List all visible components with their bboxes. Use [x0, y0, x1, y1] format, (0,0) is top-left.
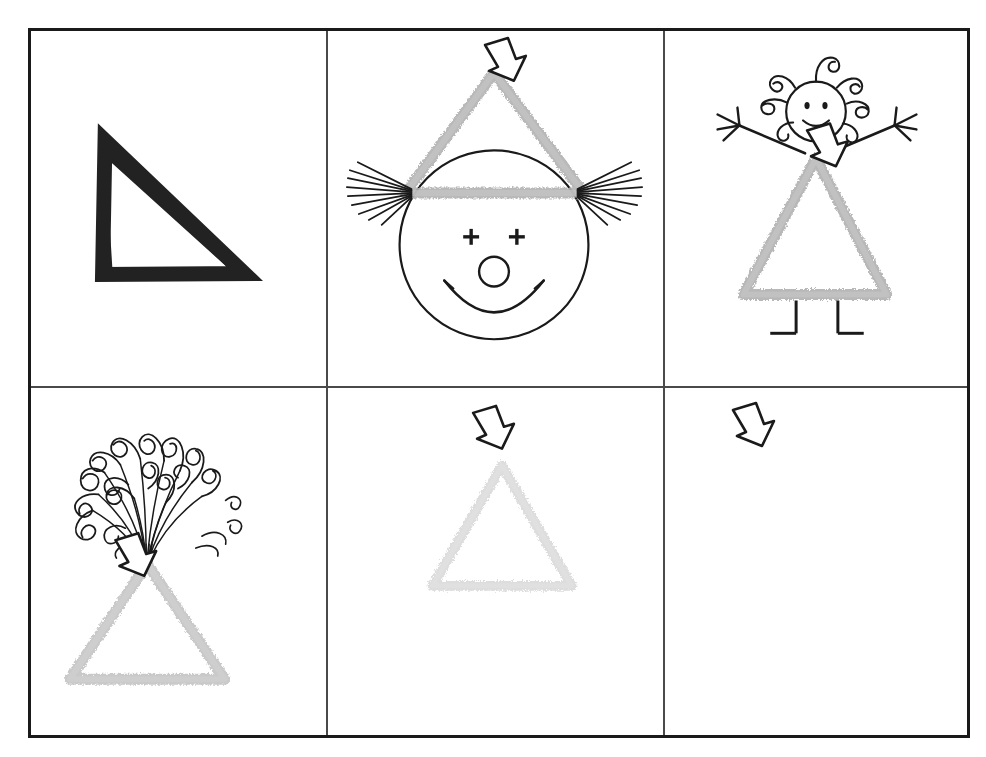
clown-face-circle: [400, 150, 589, 339]
arrow-only-drawing: [665, 388, 967, 735]
worksheet-sheet: Bold solid black outlined triangle Clown…: [28, 28, 970, 738]
worksheet-cell-4[interactable]: Triangle with a bouquet of curly loops b…: [31, 388, 328, 735]
bouquet-blossoms: [75, 434, 220, 539]
solid-triangle-stroke: [103, 140, 245, 274]
stick-girl-drawing: [665, 31, 967, 386]
solid-black-triangle-drawing: [31, 31, 326, 386]
dress-triangle-icon: [743, 158, 886, 294]
worksheet-cell-6[interactable]: Arrow alone with no triangle — the promp…: [665, 388, 967, 735]
prompt-arrow-icon: [733, 403, 774, 446]
clown-face-drawing: [328, 31, 663, 386]
faint-triangle-drawing: [328, 388, 663, 735]
worksheet-grid: Bold solid black outlined triangle Clown…: [31, 31, 967, 735]
girl-hand-left: [718, 108, 740, 141]
girl-eye-left: [804, 102, 809, 109]
bouquet-stems: [93, 459, 202, 560]
girl-leg-left: [770, 300, 796, 333]
very-faint-triangle-icon: [432, 466, 571, 586]
bouquet-triangle-drawing: [31, 388, 326, 735]
worksheet-cell-5[interactable]: Very faint gray triangle with the arrow …: [328, 388, 665, 735]
girl-hand-right: [895, 108, 917, 141]
worksheet-cell-1[interactable]: Bold solid black outlined triangle: [31, 31, 328, 388]
faded-triangle-overlay: [70, 564, 225, 679]
prompt-arrow-icon: [473, 406, 514, 449]
dress-triangle-overlay: [743, 158, 886, 294]
girl-leg-right: [838, 300, 864, 333]
clown-hair-right: [578, 162, 643, 225]
worksheet-cell-2[interactable]: Clown face wearing the triangle as a par…: [328, 31, 665, 388]
clown-nose-icon: [479, 257, 509, 287]
clown-hair-left: [347, 162, 412, 225]
worksheet-cell-3[interactable]: Stick-figure girl with curly hair, starb…: [665, 31, 967, 388]
very-faint-triangle-overlay: [432, 466, 571, 586]
faded-triangle-icon: [70, 564, 225, 679]
girl-eye-right: [822, 102, 827, 109]
